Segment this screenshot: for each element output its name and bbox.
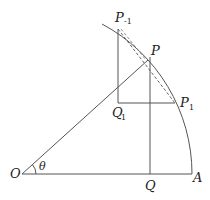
dashed-chord-secondary: [121, 29, 146, 60]
svg-text:1: 1: [189, 103, 194, 112]
segment-OP: [22, 60, 148, 174]
svg-text:P: P: [114, 10, 124, 25]
svg-text:-1: -1: [124, 17, 132, 26]
svg-text:1: 1: [121, 113, 126, 122]
label-Q-1: Q 1: [112, 105, 126, 122]
label-O: O: [10, 166, 21, 181]
label-P-1: P 1: [179, 95, 194, 112]
angle-arc-theta: [32, 165, 36, 174]
circular-arc: [102, 24, 192, 174]
geometry-diagram: O A Q P θ P -1 P 1 Q 1: [0, 0, 210, 200]
svg-text:P: P: [179, 95, 189, 110]
label-P-minus-1: P -1: [114, 10, 132, 26]
label-P: P: [150, 43, 160, 58]
label-theta: θ: [39, 160, 46, 173]
label-A: A: [192, 170, 202, 185]
label-Q: Q: [145, 178, 156, 193]
